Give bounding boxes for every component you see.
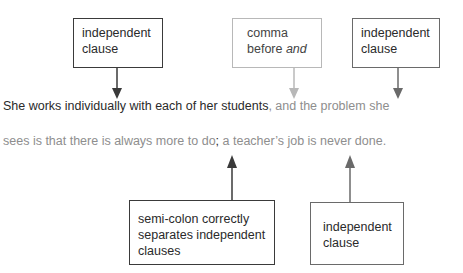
- arrow-head-down-icon: [112, 88, 122, 99]
- label-box-independent-clause-1: independent clause: [73, 18, 163, 68]
- label-text: comma: [247, 25, 313, 41]
- label-text: before and: [247, 41, 313, 57]
- sentence-line-2: sees is that there is always more to do;…: [3, 134, 386, 148]
- independent-clause-text: She works individually with each of her …: [3, 99, 268, 113]
- label-text-italic: and: [286, 42, 307, 56]
- arrow-head-up-icon: [345, 155, 355, 168]
- label-text: clause: [323, 235, 395, 251]
- arrow-head-down-icon: [289, 88, 299, 99]
- label-text: clause: [361, 41, 431, 57]
- sentence-continuation: , and the problem she: [268, 99, 389, 113]
- label-text: separates independent: [138, 227, 266, 243]
- label-text: clause: [82, 41, 154, 57]
- label-box-comma-before-and: comma before and: [232, 18, 322, 68]
- arrow-head-up-icon: [227, 155, 237, 168]
- label-text: semi-colon correctly: [138, 211, 266, 227]
- label-text: independent: [323, 219, 395, 235]
- sentence-line-1: She works individually with each of her …: [3, 99, 389, 113]
- sentence-text: sees is that there is always more to do: [3, 134, 216, 148]
- sentence-text: a teacher’s job is never done.: [219, 134, 386, 148]
- label-box-independent-clause-2: independent clause: [352, 18, 440, 68]
- label-box-independent-clause-3: independent clause: [310, 202, 404, 265]
- label-text: independent: [361, 25, 431, 41]
- label-box-semicolon: semi-colon correctly separates independe…: [129, 200, 275, 265]
- arrow-head-down-icon: [393, 88, 403, 99]
- label-text: clauses: [138, 243, 266, 259]
- label-text: independent: [82, 25, 154, 41]
- label-text-prefix: before: [247, 42, 286, 56]
